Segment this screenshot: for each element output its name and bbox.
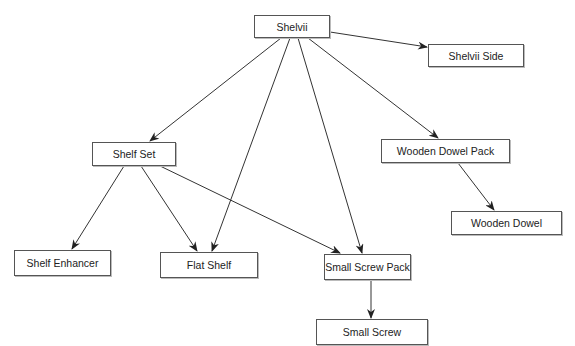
edge-shelf-set-to-shelf-enhancer	[72, 166, 124, 249]
edge-shelvii-to-shelf-set	[150, 38, 281, 141]
node-wooden-dowel-pack[interactable]: Wooden Dowel Pack	[381, 139, 510, 163]
edge-shelvii-to-wooden-dowel-pack	[308, 38, 438, 138]
edge-wooden-dowel-pack-to-wooden-dowel	[458, 163, 494, 210]
node-shelvii-side[interactable]: Shelvii Side	[428, 44, 524, 67]
edge-shelvii-to-flat-shelf	[212, 38, 290, 251]
node-label: Flat Shelf	[187, 259, 231, 271]
edge-shelf-set-to-flat-shelf	[141, 166, 197, 251]
node-label: Wooden Dowel Pack	[397, 145, 494, 157]
node-label: Small Screw	[343, 326, 401, 338]
node-label: Shelvii Side	[449, 50, 504, 62]
node-label: Shelvii	[277, 21, 308, 33]
edge-shelvii-to-shelvii-side	[330, 32, 427, 47]
edge-shelf-set-to-small-screw-pack	[158, 165, 340, 253]
node-shelf-set[interactable]: Shelf Set	[92, 142, 176, 166]
node-label: Shelf Set	[113, 148, 156, 160]
node-flat-shelf[interactable]: Flat Shelf	[160, 252, 258, 278]
node-label: Small Screw Pack	[325, 261, 410, 273]
node-small-screw-pack[interactable]: Small Screw Pack	[324, 254, 411, 280]
edge-shelvii-to-small-screw-pack	[298, 38, 362, 253]
node-small-screw[interactable]: Small Screw	[316, 319, 428, 345]
node-label: Wooden Dowel	[471, 217, 542, 229]
node-wooden-dowel[interactable]: Wooden Dowel	[451, 211, 562, 235]
node-shelf-enhancer[interactable]: Shelf Enhancer	[14, 250, 111, 276]
node-label: Shelf Enhancer	[27, 257, 99, 269]
node-shelvii[interactable]: Shelvii	[254, 15, 330, 38]
